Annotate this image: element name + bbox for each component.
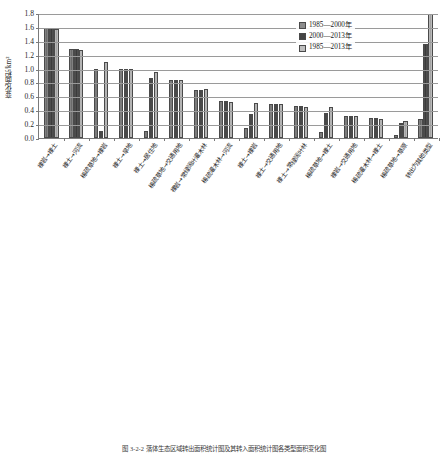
x-axis-tick (139, 138, 140, 141)
x-axis-tick (164, 138, 165, 141)
bar[interactable] (403, 121, 407, 138)
y-axis-tick-label: 1.4 (25, 38, 35, 46)
legend-label-0: 1985—2000年 (309, 22, 352, 29)
bar[interactable] (229, 102, 233, 138)
y-axis-tick-label: 1.8 (25, 10, 35, 18)
bar-group[interactable] (164, 14, 189, 138)
bar[interactable] (379, 119, 383, 138)
y-axis-tick-label: 1.2 (25, 52, 35, 60)
bar[interactable] (219, 101, 223, 138)
bar-group[interactable] (388, 14, 413, 138)
bar-group[interactable] (189, 14, 214, 138)
x-axis-tick (264, 138, 265, 141)
plot-canvas-top (38, 14, 438, 139)
gridline (39, 70, 438, 71)
y-axis-tick (36, 70, 39, 71)
bar[interactable] (369, 118, 373, 138)
y-axis-tick-label: 1.0 (25, 66, 35, 74)
chart-bottom: 变化面积/km² 0.08.016.024.032.040.0 1985—200… (0, 228, 448, 438)
x-axis-tick (239, 138, 240, 141)
bar-group[interactable] (39, 14, 64, 138)
legend-label-1: 2000—2013年 (309, 33, 352, 40)
y-axis-tick (36, 139, 39, 140)
bar[interactable] (344, 116, 348, 138)
legend-top: 1985—2000年 2000—2013年 1985—2013年 (296, 20, 355, 54)
y-axis-tick (36, 56, 39, 57)
bar-group[interactable] (114, 14, 139, 138)
y-axis-tick-label: 0.0 (25, 135, 35, 143)
bar-group[interactable] (263, 14, 288, 138)
gridline (39, 83, 438, 84)
y-axis-tick (36, 14, 39, 15)
legend-item-2[interactable]: 1985—2013年 (299, 44, 352, 51)
gridline (39, 42, 438, 43)
bar[interactable] (124, 69, 128, 138)
bar[interactable] (269, 104, 273, 138)
bar[interactable] (394, 135, 398, 138)
bar[interactable] (274, 104, 278, 138)
bar[interactable] (244, 128, 248, 138)
chart-top: 变化面积/km² 0.00.20.40.60.81.01.21.41.61.8 … (0, 0, 448, 228)
bar[interactable] (279, 104, 283, 138)
y-axis-tick-label: 0.8 (25, 80, 35, 88)
bar[interactable] (169, 80, 173, 138)
bar-groups-top (39, 14, 438, 138)
x-axis-tick (214, 138, 215, 141)
bar[interactable] (154, 72, 158, 138)
legend-label-2: 1985—2013年 (309, 44, 352, 51)
bar-group[interactable] (239, 14, 264, 138)
y-axis-tick (36, 125, 39, 126)
bar[interactable] (319, 132, 323, 138)
legend-item-0[interactable]: 1985—2000年 (299, 22, 352, 29)
legend-item-1[interactable]: 2000—2013年 (299, 33, 352, 40)
bar[interactable] (174, 80, 178, 138)
gridline (39, 28, 438, 29)
bar[interactable] (418, 119, 422, 138)
bar[interactable] (149, 78, 153, 138)
bar[interactable] (354, 116, 358, 138)
x-axis-tick (314, 138, 315, 141)
bar[interactable] (349, 116, 353, 138)
figure-page: 变化面积/km² 0.00.20.40.60.81.01.21.41.61.8 … (0, 0, 448, 454)
x-axis-tick (89, 138, 90, 141)
legend-swatch-icon-0 (299, 22, 306, 29)
x-axis-tick (414, 138, 415, 141)
bar-group[interactable] (139, 14, 164, 138)
bar[interactable] (254, 103, 258, 138)
bar[interactable] (224, 101, 228, 138)
bar-group[interactable] (214, 14, 239, 138)
bar-group[interactable] (413, 14, 438, 138)
y-axis-tick-label: 1.6 (25, 24, 35, 32)
bar[interactable] (144, 131, 148, 138)
y-axis-tick (36, 42, 39, 43)
legend-swatch-icon-2 (299, 45, 306, 52)
bar[interactable] (374, 118, 378, 138)
gridline (39, 56, 438, 57)
figure-caption: 图 3-2-2 落体生态区域转出面积统计图及其转入面积统计图各类型面积变化图 (0, 445, 448, 454)
x-axis-tick (289, 138, 290, 141)
y-axis-tick (36, 83, 39, 84)
bar-group[interactable] (89, 14, 114, 138)
x-axis-tick (364, 138, 365, 141)
bar[interactable] (428, 14, 432, 138)
x-axis-tick (339, 138, 340, 141)
bar[interactable] (423, 44, 427, 138)
y-axis-tick-label: 0.2 (25, 121, 35, 129)
x-axis-tick (189, 138, 190, 141)
bar[interactable] (94, 69, 98, 138)
bar[interactable] (99, 131, 103, 138)
bar[interactable] (104, 62, 108, 138)
gridline (39, 14, 438, 15)
bar[interactable] (129, 69, 133, 138)
gridline (39, 111, 438, 112)
y-axis-tick-label: 0.6 (25, 94, 35, 102)
bar[interactable] (119, 69, 123, 138)
x-axis-tick (389, 138, 390, 141)
bar-group[interactable] (64, 14, 89, 138)
legend-swatch-icon-1 (299, 33, 306, 40)
x-axis-tick (114, 138, 115, 141)
bar[interactable] (179, 80, 183, 138)
bar-group[interactable] (363, 14, 388, 138)
y-axis-tick (36, 97, 39, 98)
gridline (39, 125, 438, 126)
